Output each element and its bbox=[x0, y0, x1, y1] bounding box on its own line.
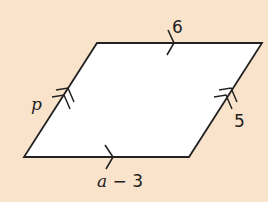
bottom-side-label: a − 3 bbox=[97, 171, 143, 191]
right-side-label: 5 bbox=[234, 111, 245, 131]
bottom-label-expression: − 3 bbox=[107, 171, 143, 191]
left-side-label: p bbox=[31, 94, 42, 114]
parallelogram-diagram: 6 p 5 a − 3 bbox=[0, 0, 268, 202]
bottom-label-variable: a bbox=[97, 171, 107, 191]
top-side-label: 6 bbox=[172, 17, 183, 37]
parallelogram-shape bbox=[24, 43, 262, 157]
